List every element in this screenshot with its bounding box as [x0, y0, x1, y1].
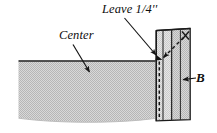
strip-b-callout-label: B [196, 71, 205, 84]
leave-callout-label: Leave 1/4'' [102, 3, 157, 16]
center-callout-label: Center [59, 29, 94, 42]
leave-callout-leader [125, 18, 157, 55]
center-fabric-panel [19, 62, 156, 123]
diagram-canvas [0, 0, 217, 133]
quilting-diagram-figure: Leave 1/4'' Center B [0, 0, 217, 133]
